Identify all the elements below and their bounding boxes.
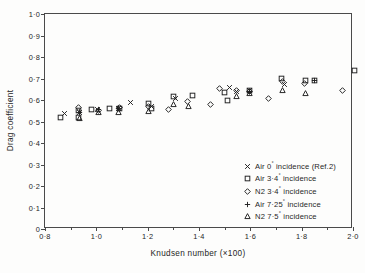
x-tick-label: 2·0 xyxy=(347,232,358,241)
x-tick-mark xyxy=(96,227,97,231)
x-axis-title-text: Knudsen number (×100) xyxy=(151,249,246,258)
x-tick-label: 0·8 xyxy=(39,232,50,241)
triangle-marker xyxy=(241,213,254,220)
data-point-cross-marker xyxy=(172,95,179,102)
data-point-diamond-marker xyxy=(279,78,286,85)
legend-label: N2 7·5° incidence xyxy=(254,212,317,221)
data-point-triangle-marker xyxy=(115,109,122,116)
square-marker xyxy=(241,175,254,182)
legend-label: Air 0° incidence (Ref.2) xyxy=(254,162,336,171)
x-tick-label: 1·4 xyxy=(193,232,204,241)
x-tick-mark xyxy=(71,227,72,230)
data-point-square-marker xyxy=(221,89,228,96)
y-axis-title: Drag coefficient xyxy=(5,13,17,228)
data-point-square-marker xyxy=(75,107,82,114)
y-tick-mark xyxy=(41,14,45,15)
data-point-square-marker xyxy=(57,114,64,121)
data-point-plus-marker xyxy=(76,109,83,116)
x-tick-mark xyxy=(173,227,174,230)
y-tick-label: 0·6 xyxy=(29,96,40,105)
data-point-square-marker xyxy=(311,77,318,84)
data-point-triangle-marker xyxy=(95,109,102,116)
data-point-diamond-marker xyxy=(216,85,223,92)
data-point-cross-marker xyxy=(76,109,83,116)
x-tick-mark xyxy=(327,227,328,230)
y-tick-mark xyxy=(41,143,45,144)
y-tick-label: 0·2 xyxy=(29,182,40,191)
data-point-diamond-marker xyxy=(207,101,214,108)
data-point-diamond-marker xyxy=(145,103,152,110)
y-tick-label: 0·3 xyxy=(29,160,40,169)
data-point-plus-marker xyxy=(311,77,318,84)
data-point-diamond-marker xyxy=(265,95,272,102)
data-point-triangle-marker xyxy=(185,103,192,110)
data-point-diamond-marker xyxy=(116,104,123,111)
legend: Air 0° incidence (Ref.2)Air 3·4° inciden… xyxy=(241,160,336,223)
data-point-square-marker xyxy=(278,75,285,82)
data-point-triangle-marker xyxy=(246,90,253,97)
x-tick-label: 1·2 xyxy=(142,232,153,241)
data-point-cross-marker xyxy=(61,110,68,117)
y-tick-mark xyxy=(41,208,45,209)
data-point-square-marker xyxy=(148,105,155,112)
legend-row: Air 7·25° incidence xyxy=(241,198,336,211)
data-point-diamond-marker xyxy=(246,88,253,95)
y-tick-mark xyxy=(41,79,45,80)
x-tick-label: 1·0 xyxy=(91,232,102,241)
data-point-diamond-marker xyxy=(75,104,82,111)
data-point-triangle-marker xyxy=(279,87,286,94)
data-point-diamond-marker xyxy=(165,106,172,113)
y-tick-label: 0·5 xyxy=(29,117,40,126)
data-point-cross-marker xyxy=(148,103,155,110)
y-tick-label: 0·1 xyxy=(29,203,40,212)
cross-marker xyxy=(241,163,254,170)
plot-area: 00·10·20·30·40·50·60·70·80·91·0 0·81·01·… xyxy=(44,13,352,228)
data-point-diamond-marker xyxy=(95,107,102,114)
data-point-plus-marker xyxy=(95,106,102,113)
x-tick-mark xyxy=(276,227,277,230)
x-tick-mark xyxy=(353,227,354,231)
data-point-diamond-marker xyxy=(233,87,240,94)
data-point-triangle-marker xyxy=(233,93,240,100)
legend-label: N2 3·4° incidence xyxy=(254,187,317,196)
data-point-cross-marker xyxy=(94,106,101,113)
data-point-square-marker xyxy=(351,67,358,74)
data-point-square-marker xyxy=(75,114,82,121)
figure-canvas: Drag coefficient 00·10·20·30·40·50·60·70… xyxy=(0,0,365,273)
diamond-marker xyxy=(241,188,254,195)
legend-row: N2 7·5° incidence xyxy=(241,210,336,223)
legend-label: Air 3·4° incidence xyxy=(254,174,316,183)
y-tick-mark xyxy=(41,57,45,58)
x-tick-mark xyxy=(302,227,303,231)
y-tick-label: 0·9 xyxy=(29,31,40,40)
data-point-cross-marker xyxy=(246,87,253,94)
data-point-square-marker xyxy=(302,77,309,84)
data-point-triangle-marker xyxy=(76,115,83,122)
y-tick-label: 0·7 xyxy=(29,74,40,83)
data-point-square-marker xyxy=(246,87,253,94)
y-tick-mark xyxy=(41,36,45,37)
x-tick-mark xyxy=(199,227,200,231)
x-axis-title: Knudsen number (×100) xyxy=(44,249,352,258)
data-point-cross-marker xyxy=(281,81,288,88)
data-point-square-marker xyxy=(224,97,231,104)
data-point-square-marker xyxy=(189,92,196,99)
data-point-plus-marker xyxy=(246,88,253,95)
legend-row: N2 3·4° incidence xyxy=(241,185,336,198)
data-point-square-marker xyxy=(170,93,177,100)
y-axis-title-text: Drag coefficient xyxy=(7,90,16,152)
x-tick-mark xyxy=(148,227,149,231)
data-point-diamond-marker xyxy=(301,80,308,87)
x-tick-mark xyxy=(45,227,46,231)
y-tick-label: 1·0 xyxy=(29,10,40,19)
data-point-triangle-marker xyxy=(302,90,309,97)
x-tick-label: 1·6 xyxy=(245,232,256,241)
data-point-square-marker xyxy=(106,105,113,112)
data-point-plus-marker xyxy=(115,105,122,112)
data-point-diamond-marker xyxy=(339,87,346,94)
x-tick-mark xyxy=(225,227,226,230)
data-point-square-marker xyxy=(116,105,123,112)
legend-row: Air 0° incidence (Ref.2) xyxy=(241,160,336,173)
data-point-cross-marker xyxy=(226,84,233,91)
data-point-cross-marker xyxy=(233,88,240,95)
